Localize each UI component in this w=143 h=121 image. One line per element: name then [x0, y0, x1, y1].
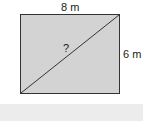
right-side-label: 6 m	[123, 48, 141, 60]
diagonal-line	[20, 14, 120, 94]
diagonal-unknown-label: ?	[63, 42, 69, 54]
bottom-band	[0, 104, 143, 121]
top-side-label: 8 m	[61, 1, 79, 13]
